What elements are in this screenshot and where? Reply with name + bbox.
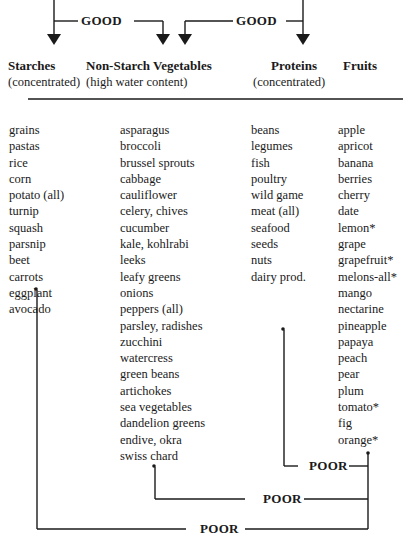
list-item: meat (all): [251, 203, 306, 219]
list-item: nectarine: [338, 301, 397, 317]
list-item: brussel sprouts: [120, 155, 205, 171]
list-item: pineapple: [338, 318, 397, 334]
list-item: poultry: [251, 171, 306, 187]
list-item: wild game: [251, 187, 306, 203]
list-item: swiss chard: [120, 448, 205, 464]
list-item: potato (all): [9, 187, 64, 203]
list-item: seafood: [251, 220, 306, 236]
list-item: leeks: [120, 252, 205, 268]
list-item: leafy greens: [120, 269, 205, 285]
list-item: corn: [9, 171, 64, 187]
list-item: mango: [338, 285, 397, 301]
list-item: apricot: [338, 138, 397, 154]
vegetables-list: asparagus broccoli brussel sprouts cabba…: [120, 122, 205, 464]
list-item: grains: [9, 122, 64, 138]
list-item: fig: [338, 415, 397, 431]
fruits-list: apple apricot banana berries cherry date…: [338, 122, 397, 448]
list-item: plum: [338, 383, 397, 399]
header-starches: Starches: [8, 58, 55, 74]
good-label-protein-veg: GOOD: [235, 13, 278, 29]
list-item: banana: [338, 155, 397, 171]
subheader-starches: (concentrated): [8, 75, 80, 90]
list-item: watercress: [120, 350, 205, 366]
list-item: onions: [120, 285, 205, 301]
list-item: fish: [251, 155, 306, 171]
list-item: papaya: [338, 334, 397, 350]
list-item: pastas: [9, 138, 64, 154]
list-item: grapefruit*: [338, 252, 397, 268]
list-item: dairy prod.: [251, 269, 306, 285]
list-item: dandelion greens: [120, 415, 205, 431]
list-item: parsley, radishes: [120, 318, 205, 334]
list-item: apple: [338, 122, 397, 138]
list-item: cherry: [338, 187, 397, 203]
list-item: legumes: [251, 138, 306, 154]
list-item: sea vegetables: [120, 399, 205, 415]
poor-label-protein-fruit: POOR: [308, 458, 349, 474]
list-item: berries: [338, 171, 397, 187]
list-item: rice: [9, 155, 64, 171]
list-item: tomato*: [338, 399, 397, 415]
list-item: pear: [338, 366, 397, 382]
list-item: asparagus: [120, 122, 205, 138]
list-item: carrots: [9, 269, 64, 285]
list-item: beet: [9, 252, 64, 268]
subheader-vegetables: (high water content): [86, 75, 187, 90]
list-item: lemon*: [338, 220, 397, 236]
starches-list: grains pastas rice corn potato (all) tur…: [9, 122, 64, 318]
list-item: avocado: [9, 301, 64, 317]
header-proteins: Proteins: [271, 58, 317, 74]
list-item: seeds: [251, 236, 306, 252]
list-item: date: [338, 203, 397, 219]
list-item: squash: [9, 220, 64, 236]
list-item: broccoli: [120, 138, 205, 154]
list-item: peach: [338, 350, 397, 366]
list-item: green beans: [120, 366, 205, 382]
list-item: eggplant: [9, 285, 64, 301]
poor-label-starch-fruit: POOR: [199, 521, 240, 537]
list-item: celery, chives: [120, 203, 205, 219]
list-item: kale, kohlrabi: [120, 236, 205, 252]
list-item: cabbage: [120, 171, 205, 187]
list-item: nuts: [251, 252, 306, 268]
proteins-list: beans legumes fish poultry wild game mea…: [251, 122, 306, 285]
list-item: beans: [251, 122, 306, 138]
list-item: endive, okra: [120, 432, 205, 448]
list-item: turnip: [9, 203, 64, 219]
poor-label-veg-fruit: POOR: [262, 491, 303, 507]
list-item: parsnip: [9, 236, 64, 252]
list-item: cucumber: [120, 220, 205, 236]
list-item: peppers (all): [120, 301, 205, 317]
list-item: artichokes: [120, 383, 205, 399]
subheader-proteins: (concentrated): [253, 75, 325, 90]
list-item: orange*: [338, 432, 397, 448]
list-item: zucchini: [120, 334, 205, 350]
good-label-starch-veg: GOOD: [80, 13, 123, 29]
header-fruits: Fruits: [343, 58, 377, 74]
list-item: melons-all*: [338, 269, 397, 285]
list-item: cauliflower: [120, 187, 205, 203]
list-item: grape: [338, 236, 397, 252]
header-vegetables: Non-Starch Vegetables: [86, 58, 212, 74]
